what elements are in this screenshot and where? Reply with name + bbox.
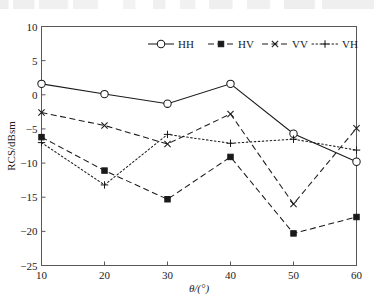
legend-label-HV: HV (238, 38, 254, 50)
x-tick-label: 10 (36, 269, 48, 281)
plot-frame (42, 27, 357, 266)
data-point-plus (227, 140, 234, 147)
data-point-circle-open (227, 80, 234, 87)
y-tick-label: −20 (20, 225, 38, 237)
data-point-circle-open (101, 90, 108, 97)
y-axis-tick-labels: 1050−5−10−15−20−25 (20, 21, 38, 272)
y-axis-title: RCS/dBsm (5, 121, 17, 171)
data-point-cross-x (164, 141, 170, 147)
x-tick-label: 40 (225, 269, 237, 281)
y-tick-label: −15 (20, 191, 38, 203)
data-series-group (42, 84, 357, 234)
data-point-square-filled (218, 41, 223, 46)
data-point-plus (353, 146, 360, 153)
y-tick-label: −5 (26, 123, 38, 135)
data-point-plus (101, 181, 108, 188)
y-axis-ticks (42, 27, 46, 266)
x-tick-label: 50 (288, 269, 300, 281)
x-tick-label: 60 (351, 269, 363, 281)
x-axis-title: θ/(°) (189, 282, 210, 295)
data-point-square-filled (165, 197, 170, 202)
series-line-VH (42, 134, 357, 185)
chart-container: 1050−5−10−15−20−25 102030405060 RCS/dBsm… (0, 0, 374, 299)
data-point-square-filled (228, 154, 233, 159)
data-markers-group (38, 80, 360, 236)
data-point-circle-open (164, 100, 171, 107)
data-point-cross-x (227, 111, 233, 117)
data-point-cross-x (290, 201, 296, 207)
x-tick-label: 20 (99, 269, 111, 281)
y-tick-label: 5 (32, 55, 38, 67)
legend: HHHVVVVH (148, 38, 358, 50)
x-axis-ticks (42, 262, 357, 266)
legend-label-VH: VH (342, 38, 358, 50)
y-tick-label: 0 (32, 89, 38, 101)
data-point-circle-open (38, 80, 45, 87)
data-point-plus (321, 40, 328, 47)
data-point-square-filled (102, 168, 107, 173)
rcs-line-chart: 1050−5−10−15−20−25 102030405060 RCS/dBsm… (0, 0, 374, 299)
y-tick-label: 10 (27, 21, 39, 33)
data-point-circle-open (353, 158, 360, 165)
x-axis-tick-labels: 102030405060 (36, 269, 363, 281)
legend-label-VV: VV (292, 38, 308, 50)
data-point-square-filled (354, 214, 359, 219)
series-line-VV (42, 113, 357, 204)
legend-label-HH: HH (178, 38, 194, 50)
data-point-square-filled (291, 231, 296, 236)
data-point-circle-open (157, 40, 164, 47)
x-tick-label: 30 (162, 269, 174, 281)
y-tick-label: −10 (20, 157, 38, 169)
